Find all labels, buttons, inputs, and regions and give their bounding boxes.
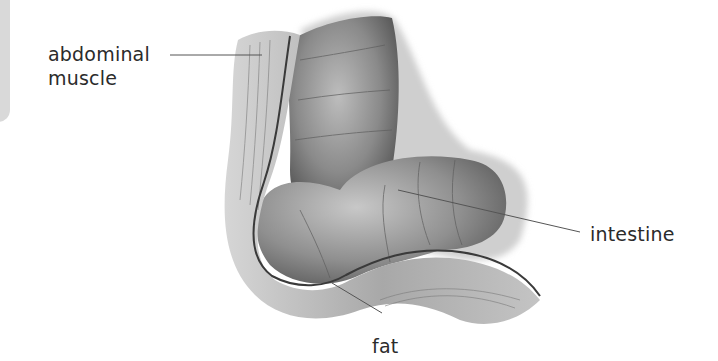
label-fat: fat (372, 334, 398, 358)
label-abdominal-muscle-line1: abdominal (48, 42, 150, 66)
label-fat-text: fat (372, 334, 398, 358)
label-intestine-text: intestine (590, 222, 675, 246)
label-abdominal-muscle: abdominal muscle (48, 42, 150, 90)
label-abdominal-muscle-line2: muscle (48, 66, 150, 90)
label-intestine: intestine (590, 222, 675, 246)
